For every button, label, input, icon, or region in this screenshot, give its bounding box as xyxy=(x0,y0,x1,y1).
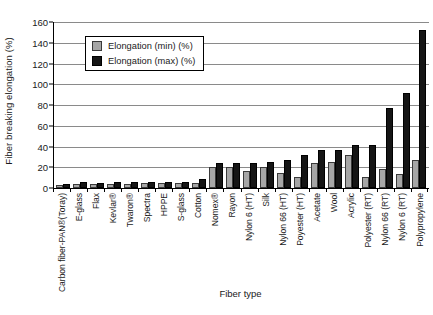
x-axis-tick-labels: Carbon fiber-PAN®(Toray)E-glassFlaxKevla… xyxy=(53,193,428,288)
x-axis-tick-label: Nylon 6 (HT) xyxy=(245,193,254,241)
bar-max xyxy=(267,162,274,188)
bar-group xyxy=(225,22,242,188)
x-axis-tick-label: Nylon 66 (RT) xyxy=(381,193,390,246)
x-axis-tick-label: Acetate xyxy=(313,193,322,222)
x-axis-tick-label: Polyester (RT) xyxy=(364,193,373,248)
bar-min xyxy=(260,167,267,188)
x-axis-tick-label: Poyester (HT) xyxy=(296,193,305,246)
bar-group xyxy=(258,22,275,188)
x-axis-tick-label: Acrylic xyxy=(347,193,356,218)
x-axis-label-slot: Rayon xyxy=(223,193,240,288)
bar-min xyxy=(294,177,301,188)
bar-min xyxy=(209,167,216,188)
legend-item-max: Elongation (max) (%) xyxy=(92,56,195,66)
bar-max xyxy=(216,163,223,188)
x-axis-label-slot: Acrylic xyxy=(343,193,360,288)
x-axis-tick-label: Kevlar® xyxy=(108,193,117,223)
x-axis-label-slot: Nylon 66 (HT) xyxy=(275,193,292,288)
x-axis-tick-slot xyxy=(360,188,377,192)
x-axis-label-slot: E-glass xyxy=(70,193,87,288)
x-axis-label-slot: Spectra xyxy=(138,193,155,288)
x-axis-label-slot: Cotton xyxy=(189,193,206,288)
bar-chart-figure: Fiber breaking elongation (%) 0204060801… xyxy=(0,0,433,315)
x-axis-tick-marks xyxy=(53,188,428,192)
x-axis-tick-slot xyxy=(411,188,428,192)
x-axis-label-slot: Twaron® xyxy=(121,193,138,288)
y-axis-tick-labels: 020406080100120140160 xyxy=(14,0,48,315)
x-axis-tick-label: Nomex® xyxy=(210,193,219,226)
x-axis-tick-slot xyxy=(343,188,360,192)
bar-max xyxy=(403,93,410,188)
bar-group xyxy=(292,22,309,188)
x-axis-label-slot: Nylon 6 (HT) xyxy=(241,193,258,288)
bar-max xyxy=(250,163,257,188)
x-axis-label-slot: HPPE xyxy=(155,193,172,288)
bar-max xyxy=(369,145,376,189)
x-axis-label-slot: Polypropylene xyxy=(411,193,428,288)
bar-max xyxy=(199,179,206,188)
y-axis-tick-label: 40 xyxy=(14,142,48,151)
x-axis-tick-slot xyxy=(121,188,138,192)
bar-group xyxy=(326,22,343,188)
bar-group xyxy=(55,22,72,188)
x-axis-tick-slot xyxy=(206,188,223,192)
bar-group xyxy=(309,22,326,188)
bar-group xyxy=(411,22,428,188)
x-axis-label-slot: Nylon 66 (RT) xyxy=(377,193,394,288)
x-axis-tick-slot xyxy=(189,188,206,192)
bar-group xyxy=(275,22,292,188)
x-axis-tick-label: Flax xyxy=(91,193,100,209)
x-axis-tick-slot xyxy=(275,188,292,192)
x-axis-tick-label: Twaron® xyxy=(125,193,134,227)
x-axis-tick-label: Carbon fiber-PAN®(Toray) xyxy=(57,193,66,292)
x-axis-label-slot: Kevlar® xyxy=(104,193,121,288)
bar-min xyxy=(243,171,250,188)
bar-max xyxy=(301,155,308,188)
x-axis-label-slot: Carbon fiber-PAN®(Toray) xyxy=(53,193,70,288)
x-axis-tick-slot xyxy=(394,188,411,192)
x-axis-tick-slot xyxy=(258,188,275,192)
x-axis-label-slot: S-glass xyxy=(172,193,189,288)
bar-max xyxy=(233,163,240,188)
x-axis-tick-slot xyxy=(241,188,258,192)
bar-min xyxy=(396,174,403,188)
x-axis-tick-slot xyxy=(155,188,172,192)
x-axis-label-slot: Nylon 6 (RT) xyxy=(394,193,411,288)
bar-min xyxy=(328,162,335,188)
bar-min xyxy=(226,167,233,188)
bar-group xyxy=(343,22,360,188)
x-axis-label-slot: Polyester (RT) xyxy=(360,193,377,288)
x-axis-tick-slot xyxy=(70,188,87,192)
x-axis-label-slot: Flax xyxy=(87,193,104,288)
x-axis-tick-label: Rayon xyxy=(227,193,236,218)
x-axis-tick-slot xyxy=(138,188,155,192)
bar-min xyxy=(362,177,369,188)
x-axis-tick-label: E-glass xyxy=(74,193,83,221)
y-axis-tick-label: 140 xyxy=(14,38,48,47)
bar-min xyxy=(412,160,419,188)
y-axis-tick-label: 20 xyxy=(14,163,48,172)
bar-min xyxy=(379,169,386,188)
bar-min xyxy=(345,155,352,188)
bar-min xyxy=(311,163,318,188)
x-axis-tick-slot xyxy=(172,188,189,192)
x-axis-title: Fiber type xyxy=(53,288,428,299)
x-axis-tick-slot xyxy=(292,188,309,192)
x-axis-tick-slot xyxy=(326,188,343,192)
x-axis-label-slot: Silk xyxy=(258,193,275,288)
x-axis-tick-slot xyxy=(104,188,121,192)
bar-max xyxy=(284,160,291,188)
gray-square-swatch-icon xyxy=(92,41,102,51)
x-axis-tick-label: S-glass xyxy=(176,193,185,221)
bar-group xyxy=(377,22,394,188)
legend-item-label: Elongation (max) (%) xyxy=(108,56,195,66)
y-axis-tick-label: 160 xyxy=(14,18,48,27)
legend-item-min: Elongation (min) (%) xyxy=(92,41,195,51)
x-axis-tick-label: Wool xyxy=(330,193,339,212)
y-axis-tick-label: 100 xyxy=(14,80,48,89)
y-axis-tick-label: 120 xyxy=(14,59,48,68)
bar-group xyxy=(394,22,411,188)
bar-max xyxy=(386,108,393,188)
legend-item-label: Elongation (min) (%) xyxy=(108,41,193,51)
bar-group xyxy=(360,22,377,188)
